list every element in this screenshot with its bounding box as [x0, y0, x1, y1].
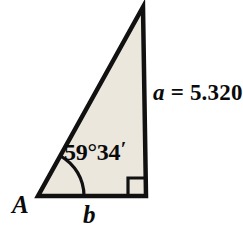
side-label-b: b [83, 202, 96, 227]
side-a-value: 5.320 [190, 80, 243, 105]
angle-minutes-value: 34 [97, 139, 120, 165]
triangle-svg [0, 0, 243, 230]
prime-symbol-icon: ′ [120, 138, 126, 160]
side-label-a: a = 5.320 [153, 81, 243, 104]
triangle-outline [38, 7, 146, 196]
angle-degrees-value: 59 [64, 139, 87, 165]
side-a-equals: = [165, 80, 190, 105]
side-a-variable: a [153, 80, 165, 105]
triangle-figure: A b a = 5.320 59°34′ [0, 0, 243, 230]
vertex-label-A: A [12, 192, 29, 217]
angle-label-A: 59°34′ [64, 139, 126, 164]
degree-symbol-icon: ° [87, 139, 96, 165]
